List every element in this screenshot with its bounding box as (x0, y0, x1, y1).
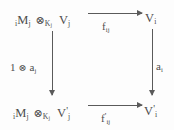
arrow-label-a-i: ai (156, 61, 163, 74)
arrow-label-one-tensor-a-j: 1⊗aj (10, 62, 36, 75)
arrow-label-f-ij: fij (102, 20, 110, 34)
tensor-product-icon: ⊗ (34, 107, 43, 119)
module-subscript-j: j (26, 112, 28, 121)
tensor-product-icon: ⊗ (19, 62, 27, 73)
vector-space-subscript-j: j (68, 19, 70, 28)
vector-space-subscript-j: j (68, 112, 70, 121)
tensor-base-ring-subscript-j: j (50, 22, 52, 28)
map-subscript-j: j (35, 67, 37, 74)
vector-space-symbol-V: V (57, 106, 66, 120)
vector-space-subscript-i: i (154, 17, 156, 26)
arrow-top-horizontal (88, 13, 142, 14)
commutative-diagram: iMj⊗KjVj fij Vi 1⊗aj ai iMj⊗KjV'j f'ij V… (0, 0, 174, 130)
vector-space-symbol-V: V (144, 104, 153, 118)
node-bottom-right-vector-space: V'i (144, 104, 157, 119)
module-subscript-j: j (28, 19, 30, 28)
arrow-right-vertical (152, 29, 153, 95)
tensor-base-ring-subscript-j: j (48, 115, 50, 121)
map-subscript-i: i (161, 66, 163, 73)
vector-space-subscript-i: i (155, 110, 157, 119)
node-bottom-left-tensor-product: iMj⊗KjV'j (13, 106, 70, 122)
map-subscript-ij: ij (106, 26, 110, 33)
identity-symbol-one: 1 (10, 61, 16, 73)
node-top-left-tensor-product: iMj⊗KjVj (15, 14, 70, 29)
arrow-label-f-ij-prime: f'ij (101, 112, 110, 126)
vector-space-symbol-V: V (145, 11, 154, 25)
arrow-left-vertical (52, 31, 53, 95)
map-subscript-ij: ij (106, 118, 110, 125)
tensor-product-icon: ⊗ (36, 14, 45, 26)
node-top-right-vector-space: Vi (145, 11, 156, 26)
arrow-bottom-horizontal (88, 105, 142, 106)
module-symbol-M: M (17, 13, 28, 27)
module-symbol-M: M (15, 106, 26, 120)
vector-space-symbol-V: V (59, 13, 68, 27)
